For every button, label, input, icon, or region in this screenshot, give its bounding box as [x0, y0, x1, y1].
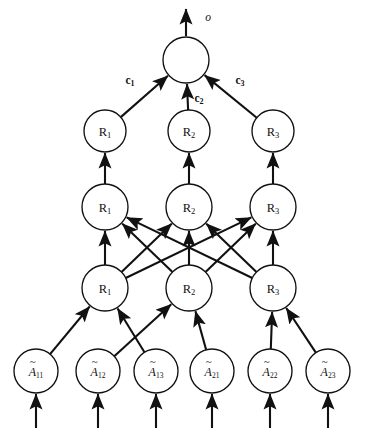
output-label: o: [205, 11, 211, 23]
network-diagram: R1R2R3R1R2R3R1R2R3A11~A12~A13~A21~A22~A2…: [0, 0, 366, 433]
edge-A22-to-L2R3: [271, 312, 272, 349]
tilde-accent-A11: ~: [30, 355, 36, 367]
node-out: [163, 37, 209, 83]
tilde-accent-A13: ~: [150, 355, 156, 367]
layer3-to-layer4-edges: [105, 153, 273, 184]
tilde-accent-A22: ~: [264, 355, 270, 367]
edge-A23-to-L2R3: [286, 308, 316, 353]
edge-L4R2-to-out: [187, 84, 188, 110]
coefficient-label-c2: c2: [194, 92, 203, 106]
coefficient-label-c3: c3: [235, 74, 244, 88]
edge-A21-to-L2R2: [195, 311, 206, 350]
input-to-layer2-edges: [50, 304, 316, 356]
tilde-accent-A12: ~: [92, 355, 98, 367]
edge-A13-to-L2R1: [118, 308, 145, 352]
bottom-input-arrows-group: [36, 394, 328, 428]
coefficient-label-c1: c1: [125, 74, 134, 88]
edge-A11-to-L2R1: [50, 306, 90, 354]
tilde-accent-A23: ~: [322, 355, 328, 367]
network-diagram-canvas: R1R2R3R1R2R3R1R2R3A11~A12~A13~A21~A22~A2…: [0, 0, 366, 433]
nodes-group: [14, 37, 350, 393]
edge-L4R3-to-out: [205, 75, 257, 118]
tilde-accent-A21: ~: [206, 355, 212, 367]
